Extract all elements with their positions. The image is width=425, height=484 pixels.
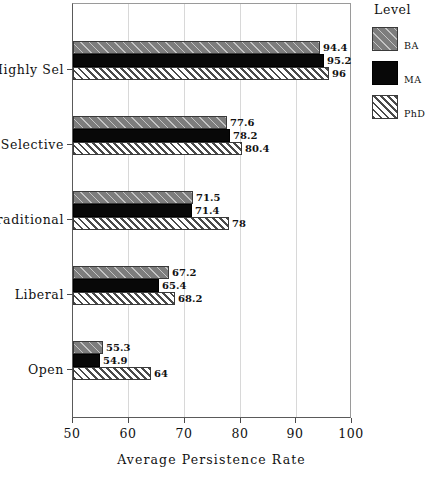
ytick-open [67,369,73,370]
bar-liberal-ma[interactable] [73,279,159,292]
bar-value-highly-sel-ma: 95.2 [327,54,351,67]
xtick-80 [240,418,241,423]
bar-selective-phd[interactable] [73,142,242,155]
bar-open-ba[interactable] [73,341,103,354]
x-axis-title: Average Persistence Rate [72,452,351,467]
legend-item-phd[interactable]: PhD [366,95,421,129]
bar-group-traditional: 71.5 71.4 78 [73,191,350,230]
bar-value-open-phd: 64 [154,367,168,380]
legend-label-phd: PhD [404,108,425,119]
bar-value-liberal-phd: 68.2 [178,292,202,305]
bar-value-traditional-phd: 78 [232,217,246,230]
bar-liberal-ba[interactable] [73,266,169,279]
bar-highly-sel-ma[interactable] [73,54,324,67]
bar-open-phd[interactable] [73,367,151,380]
plot-area: 94.4 95.2 96 77.6 78.2 80.4 71.5 71.4 78 [72,3,351,418]
bar-traditional-phd[interactable] [73,217,229,230]
bar-value-traditional-ba: 71.5 [196,191,220,204]
bar-value-selective-ba: 77.6 [230,116,254,129]
bar-group-highly-sel: 94.4 95.2 96 [73,41,350,80]
ytick-highly-sel [67,69,73,70]
xtick-90 [295,418,296,423]
xtick-60 [128,418,129,423]
ylabel-selective: Selective [1,137,64,152]
ytick-liberal [67,294,73,295]
bar-highly-sel-phd[interactable] [73,67,329,80]
legend-title: Level [374,2,421,17]
legend-item-ma[interactable]: MA [366,61,421,95]
bar-value-selective-phd: 80.4 [245,142,269,155]
bar-value-traditional-ma: 71.4 [195,204,219,217]
ylabel-liberal: Liberal [15,287,64,302]
ytick-selective [67,144,73,145]
legend-swatch-ba-icon [372,27,398,51]
ytick-traditional [67,219,73,220]
bar-open-ma[interactable] [73,354,100,367]
xticklabel-100: 100 [338,426,363,441]
bar-highly-sel-ba[interactable] [73,41,320,54]
bar-value-open-ba: 55.3 [106,341,130,354]
bar-traditional-ba[interactable] [73,191,193,204]
legend-swatch-phd-icon [372,95,398,119]
xtick-50 [72,418,73,423]
ylabel-open: Open [28,362,64,377]
xticklabel-80: 80 [232,426,249,441]
bar-group-selective: 77.6 78.2 80.4 [73,116,350,155]
bar-value-highly-sel-phd: 96 [332,67,346,80]
bar-selective-ma[interactable] [73,129,230,142]
xticklabel-90: 90 [287,426,304,441]
legend: Level BA MA PhD [366,2,421,129]
xticklabel-60: 60 [120,426,137,441]
bar-group-liberal: 67.2 65.4 68.2 [73,266,350,305]
xtick-100 [351,418,352,423]
legend-label-ba: BA [404,40,419,51]
bar-traditional-ma[interactable] [73,204,192,217]
bar-selective-ba[interactable] [73,116,227,129]
bar-value-open-ma: 54.9 [103,354,127,367]
ylabel-traditional: Traditional [0,212,64,227]
xticklabel-50: 50 [64,426,81,441]
xtick-70 [184,418,185,423]
bar-value-liberal-ma: 65.4 [162,279,186,292]
legend-item-ba[interactable]: BA [366,27,421,61]
bar-group-open: 55.3 54.9 64 [73,341,350,380]
bar-value-highly-sel-ba: 94.4 [323,41,347,54]
bar-value-liberal-ba: 67.2 [172,266,196,279]
bar-liberal-phd[interactable] [73,292,175,305]
legend-label-ma: MA [404,74,421,85]
legend-swatch-ma-icon [372,61,398,85]
xticklabel-70: 70 [176,426,193,441]
bar-value-selective-ma: 78.2 [233,129,257,142]
ylabel-highly-sel: Highly Sel [0,62,64,77]
